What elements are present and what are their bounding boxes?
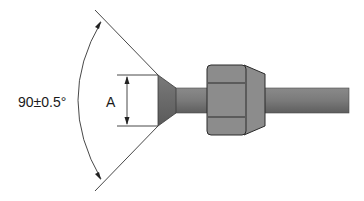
angle-line-upper <box>95 10 158 75</box>
arc-arrow-top-icon <box>95 21 101 29</box>
dim-arrow-top-icon <box>125 76 130 84</box>
angle-label: 90±0.5° <box>18 94 66 110</box>
arc-arrow-bottom-icon <box>95 172 101 180</box>
dim-arrow-bottom-icon <box>125 117 130 125</box>
angle-line-lower <box>95 126 158 191</box>
angle-lines <box>95 10 158 191</box>
nut-hex-body <box>207 65 246 135</box>
angle-arc <box>78 21 101 180</box>
flare-nut <box>207 65 265 135</box>
dimension-a <box>117 75 158 126</box>
flare-fitting-diagram: 90±0.5° A <box>0 0 364 201</box>
flare-cone <box>158 75 176 126</box>
nut-taper <box>244 65 265 135</box>
dimension-a-label: A <box>106 94 116 110</box>
